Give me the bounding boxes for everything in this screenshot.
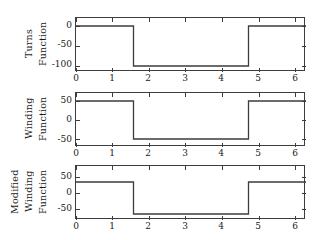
x-tick-label-turns-6: 6 [285,74,305,83]
x-tick-label-modified-4: 4 [211,222,231,231]
figure-canvas: Turns Function 0 -50 -100 [0,0,321,240]
plot-area-modified [76,166,306,220]
y-axis-label-modified-line1: Modified [10,165,22,218]
x-tick-label-winding-0: 0 [66,149,86,158]
x-tick-label-winding-5: 5 [248,149,268,158]
x-tick-label-turns-5: 5 [248,74,268,83]
y-axis-label-modified-line2: Winding [24,165,36,218]
x-tick-label-modified-5: 5 [248,222,268,231]
x-tick-label-winding-4: 4 [211,149,231,158]
y-tick-label-turns-neg100: -100 [40,60,72,69]
axes-frame-winding [75,92,305,146]
axes-frame-turns [75,17,305,71]
x-tick-label-turns-3: 3 [175,74,195,83]
data-series-modified-winding-function [76,182,306,214]
y-tick-label-modified-50: 50 [40,172,72,181]
plot-area-turns [76,18,306,72]
y-tick-label-winding-neg50: -50 [40,135,72,144]
x-tick-label-modified-6: 6 [285,222,305,231]
y-tick-label-winding-0: 0 [40,115,72,124]
x-tick-label-winding-1: 1 [102,149,122,158]
y-tick-marks-turns [76,26,306,66]
x-tick-label-winding-6: 6 [285,149,305,158]
x-tick-marks-modified [77,166,296,220]
x-tick-label-modified-1: 1 [102,222,122,231]
x-tick-label-modified-0: 0 [66,222,86,231]
x-tick-label-turns-0: 0 [66,74,86,83]
x-tick-label-turns-1: 1 [102,74,122,83]
plot-area-winding [76,93,306,147]
axes-frame-modified [75,165,305,219]
x-tick-label-modified-3: 3 [175,222,195,231]
x-tick-label-modified-2: 2 [138,222,158,231]
data-series-winding-function [76,101,306,139]
y-axis-label-winding-line1: Winding [24,92,36,145]
y-tick-label-winding-50: 50 [40,96,72,105]
y-tick-marks-winding [76,101,306,139]
y-tick-label-modified-neg50: -50 [40,204,72,213]
x-tick-label-turns-2: 2 [138,74,158,83]
x-tick-label-winding-3: 3 [175,149,195,158]
data-series-turns-function [76,26,306,66]
y-axis-label-turns-line1: Turns [24,17,36,70]
y-tick-label-modified-0: 0 [40,188,72,197]
y-tick-label-turns-neg50: -50 [40,40,72,49]
y-tick-label-turns-0: 0 [40,21,72,30]
x-tick-label-turns-4: 4 [211,74,231,83]
x-tick-label-winding-2: 2 [138,149,158,158]
